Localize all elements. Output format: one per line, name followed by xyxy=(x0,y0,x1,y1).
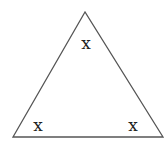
angle-label-bottom-right: x xyxy=(128,115,138,135)
angle-label-top: x xyxy=(81,33,91,53)
triangle-diagram: x x x xyxy=(0,0,167,148)
angle-label-bottom-left: x xyxy=(33,115,43,135)
